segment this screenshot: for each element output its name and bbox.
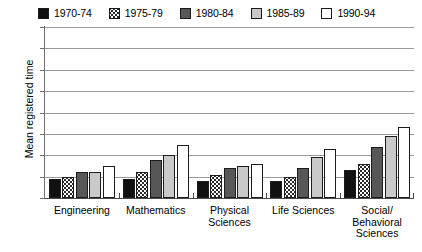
y-gridline <box>45 155 414 156</box>
bar <box>210 175 222 199</box>
x-group-separator <box>413 193 414 198</box>
y-tick-mark <box>40 177 45 178</box>
x-group-separator <box>193 193 194 198</box>
bar <box>224 168 236 198</box>
y-gridline <box>45 91 414 92</box>
bar <box>49 179 61 198</box>
y-gridline <box>45 27 414 28</box>
bar <box>297 168 309 198</box>
bar <box>251 164 263 198</box>
chart-legend: 1970-741975-791980-841985-891990-94 <box>38 5 418 22</box>
x-axis-group-label: Mathematics <box>119 205 193 217</box>
x-axis-label-line: Life Sciences <box>266 205 340 217</box>
bar <box>150 160 162 198</box>
bar <box>237 166 249 198</box>
legend-item[interactable]: 1970-74 <box>38 8 92 19</box>
bar <box>177 145 189 198</box>
legend-swatch-icon <box>180 8 191 19</box>
x-axis-label-line: Social/ <box>340 205 414 217</box>
y-tick-mark <box>40 155 45 156</box>
x-axis-label-line: Sciences <box>340 228 414 240</box>
y-tick-mark <box>40 198 45 199</box>
x-axis-group-label: Social/BehavioralSciences <box>340 205 414 240</box>
bar <box>324 149 336 198</box>
y-gridline <box>45 48 414 49</box>
bar <box>371 147 383 198</box>
legend-swatch-icon <box>251 8 262 19</box>
y-tick-mark <box>40 91 45 92</box>
x-axis-label-line: Engineering <box>45 205 119 217</box>
bar <box>385 136 397 198</box>
bar-chart: 1970-741975-791980-841985-891990-94 Mean… <box>0 0 422 252</box>
y-gridline <box>45 198 414 199</box>
bar <box>163 155 175 198</box>
x-axis-label-line: Mathematics <box>119 205 193 217</box>
bar <box>103 166 115 198</box>
legend-item-label: 1970-74 <box>54 8 92 19</box>
legend-item-label: 1975-79 <box>125 8 163 19</box>
bar <box>284 177 296 198</box>
x-group-separator <box>340 193 341 198</box>
y-gridline <box>45 113 414 114</box>
plot-area: 5678910111213EngineeringMathematicsPhysi… <box>45 27 414 198</box>
y-gridline <box>45 70 414 71</box>
bar <box>62 177 74 198</box>
y-tick-mark <box>40 113 45 114</box>
y-gridline <box>45 134 414 135</box>
x-axis-group-label: Engineering <box>45 205 119 217</box>
x-axis-group-label: PhysicalSciences <box>193 205 267 228</box>
bar <box>123 179 135 198</box>
legend-item[interactable]: 1975-79 <box>109 8 163 19</box>
x-group-separator <box>119 193 120 198</box>
x-axis-label-line: Physical <box>193 205 267 217</box>
bar <box>358 164 370 198</box>
bar <box>89 172 101 198</box>
x-group-separator <box>266 193 267 198</box>
legend-item[interactable]: 1980-84 <box>180 8 234 19</box>
bar <box>136 172 148 198</box>
legend-item-label: 1985-89 <box>267 8 305 19</box>
y-tick-mark <box>40 134 45 135</box>
legend-item[interactable]: 1985-89 <box>251 8 305 19</box>
y-tick-mark <box>40 27 45 28</box>
legend-swatch-icon <box>38 8 49 19</box>
legend-item-label: 1980-84 <box>196 8 234 19</box>
bar <box>270 181 282 198</box>
bar <box>311 157 323 198</box>
legend-item[interactable]: 1990-94 <box>321 8 375 19</box>
legend-swatch-icon <box>321 8 332 19</box>
bar <box>344 170 356 198</box>
y-tick-mark <box>40 48 45 49</box>
y-axis-title: Mean registered time <box>23 29 35 189</box>
bar <box>76 172 88 198</box>
legend-item-label: 1990-94 <box>337 8 375 19</box>
bar <box>398 127 410 198</box>
x-axis-group-label: Life Sciences <box>266 205 340 217</box>
legend-swatch-icon <box>109 8 120 19</box>
x-axis-label-line: Sciences <box>193 217 267 229</box>
y-tick-mark <box>40 70 45 71</box>
bar <box>197 181 209 198</box>
